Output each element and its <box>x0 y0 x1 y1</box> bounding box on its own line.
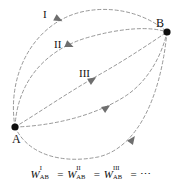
point-label-a: A <box>12 133 21 145</box>
equation-term-2: W II AB <box>67 168 76 180</box>
point-label-b: B <box>156 17 164 29</box>
equation-term-2-subscript: AB <box>76 174 85 181</box>
equation-operator-3: = <box>129 168 137 180</box>
equation-term-1-base: W <box>31 168 40 180</box>
dashed-path-outer-top <box>13 9 167 127</box>
work-equation: W I AB = W II AB = W III AB = ⋯ <box>0 168 183 181</box>
dashed-path-path-five <box>15 32 167 159</box>
path-label-ii: II <box>54 39 61 50</box>
endpoint-marker-b <box>163 28 170 35</box>
equation-term-3-subscript: AB <box>113 174 122 181</box>
equation-term-1-superscript: I <box>40 165 42 172</box>
path-label-iii: III <box>79 68 90 79</box>
equation-operator-1: = <box>56 168 64 180</box>
equation-operator-2: = <box>93 168 101 180</box>
arrowhead-path-four <box>101 102 112 113</box>
path-independence-figure: A B I II III W I AB = W II AB = W III AB… <box>0 0 183 191</box>
equation-term-1-subscript: AB <box>40 174 49 181</box>
arrowhead-path-two <box>64 40 75 50</box>
endpoint-marker-a <box>11 123 18 130</box>
equation-term-3: W III AB <box>104 168 113 180</box>
dashed-path-group <box>13 9 167 159</box>
arrowhead-group <box>53 14 138 145</box>
equation-ellipsis: ⋯ <box>140 168 152 180</box>
arrowhead-outer-top <box>53 14 64 24</box>
equation-term-2-base: W <box>67 168 76 180</box>
path-label-i: I <box>43 9 47 20</box>
equation-term-3-superscript: III <box>113 165 120 172</box>
dashed-path-path-two <box>15 29 167 127</box>
equation-term-2-superscript: II <box>76 165 80 172</box>
equation-term-1: W I AB <box>31 168 40 180</box>
equation-term-3-base: W <box>104 168 113 180</box>
